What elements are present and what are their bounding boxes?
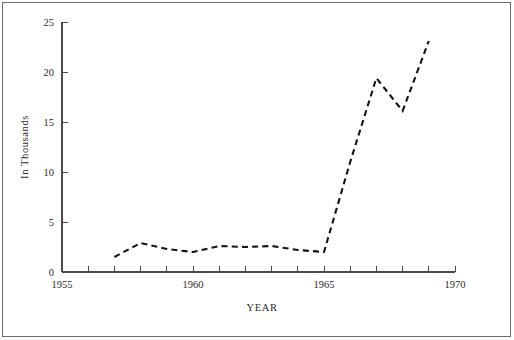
x-tick-label: 1955 [52, 279, 73, 290]
x-tick-label: 1960 [183, 279, 204, 290]
y-axis-tick-labels: 0510152025 [44, 17, 55, 278]
line-chart: 0510152025 1955196019651970 YEAR In Thou… [0, 0, 514, 340]
y-tick-label: 0 [49, 267, 54, 278]
data-series-line [114, 41, 428, 257]
x-axis-ticks [88, 266, 455, 272]
chart-figure: 0510152025 1955196019651970 YEAR In Thou… [0, 0, 514, 340]
y-tick-label: 15 [44, 117, 55, 128]
y-tick-label: 10 [44, 167, 55, 178]
y-tick-label: 5 [49, 217, 54, 228]
y-axis-title: In Thousands [19, 115, 30, 179]
x-tick-label: 1970 [445, 279, 466, 290]
x-axis-tick-labels: 1955196019651970 [52, 279, 466, 290]
y-tick-label: 20 [44, 67, 55, 78]
y-axis-ticks [62, 22, 68, 272]
x-axis-title: YEAR [247, 302, 278, 313]
y-tick-label: 25 [44, 17, 55, 28]
x-tick-label: 1965 [314, 279, 335, 290]
